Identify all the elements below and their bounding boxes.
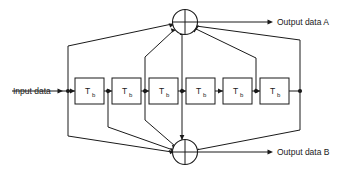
output-a-wire — [198, 20, 274, 25]
output-b-wire — [198, 150, 274, 155]
adder-a — [173, 10, 198, 35]
delay-block-5: T b — [223, 78, 252, 104]
delay-block-label: T — [159, 86, 164, 96]
block-diagram: T b T b T b T b T b T b — [0, 0, 344, 172]
delay-block-3: T b — [149, 78, 178, 104]
delay-block-label: T — [270, 86, 275, 96]
delay-block-label: T — [85, 86, 90, 96]
delay-block-label: T — [122, 86, 127, 96]
input-data-label: Input data — [13, 86, 51, 96]
delay-block-1: T b — [75, 78, 104, 104]
delay-block-2: T b — [112, 78, 141, 104]
adder-b — [173, 140, 198, 165]
output-data-b-label: Output data B — [277, 147, 330, 157]
delay-block-label: T — [233, 86, 238, 96]
delay-block-label: T — [196, 86, 201, 96]
output-data-a-label: Output data A — [277, 17, 329, 27]
delay-block-6: T b — [260, 78, 289, 104]
delay-block-4: T b — [186, 78, 215, 104]
input-wire — [58, 89, 64, 94]
